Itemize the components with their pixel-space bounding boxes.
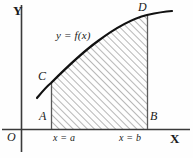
y-axis-label: Y bbox=[13, 4, 23, 17]
point-label-b: B bbox=[150, 110, 157, 122]
point-label-d: D bbox=[138, 1, 147, 13]
point-label-c: C bbox=[38, 70, 46, 82]
point-label-a: A bbox=[39, 110, 46, 122]
lower-bound-label: x = a bbox=[53, 133, 75, 143]
function-label: y = f(x) bbox=[56, 30, 91, 41]
upper-bound-label: x = b bbox=[119, 133, 141, 143]
origin-label: O bbox=[7, 131, 16, 143]
figure-canvas bbox=[0, 0, 193, 158]
area-under-curve-figure: Y X O C D A B x = a x = b y = f(x) bbox=[0, 0, 193, 158]
x-axis-label: X bbox=[170, 132, 180, 145]
